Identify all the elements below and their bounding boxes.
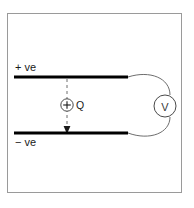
voltmeter-group: V xyxy=(154,95,176,117)
top-plate-group: + ve xyxy=(14,61,128,77)
charge-label: Q xyxy=(76,99,84,111)
figure-root: + ve − ve Q V xyxy=(0,0,194,208)
bottom-plate-group: − ve xyxy=(14,133,128,148)
test-charge-group: Q xyxy=(61,99,84,111)
capacitor-diagram: + ve − ve Q V xyxy=(0,0,194,208)
top-plate-label: + ve xyxy=(15,61,36,73)
bottom-plate-label: − ve xyxy=(15,136,36,148)
wire-top-segment xyxy=(128,74,170,95)
wire-bottom-segment xyxy=(128,117,170,136)
voltmeter-label: V xyxy=(161,101,169,113)
